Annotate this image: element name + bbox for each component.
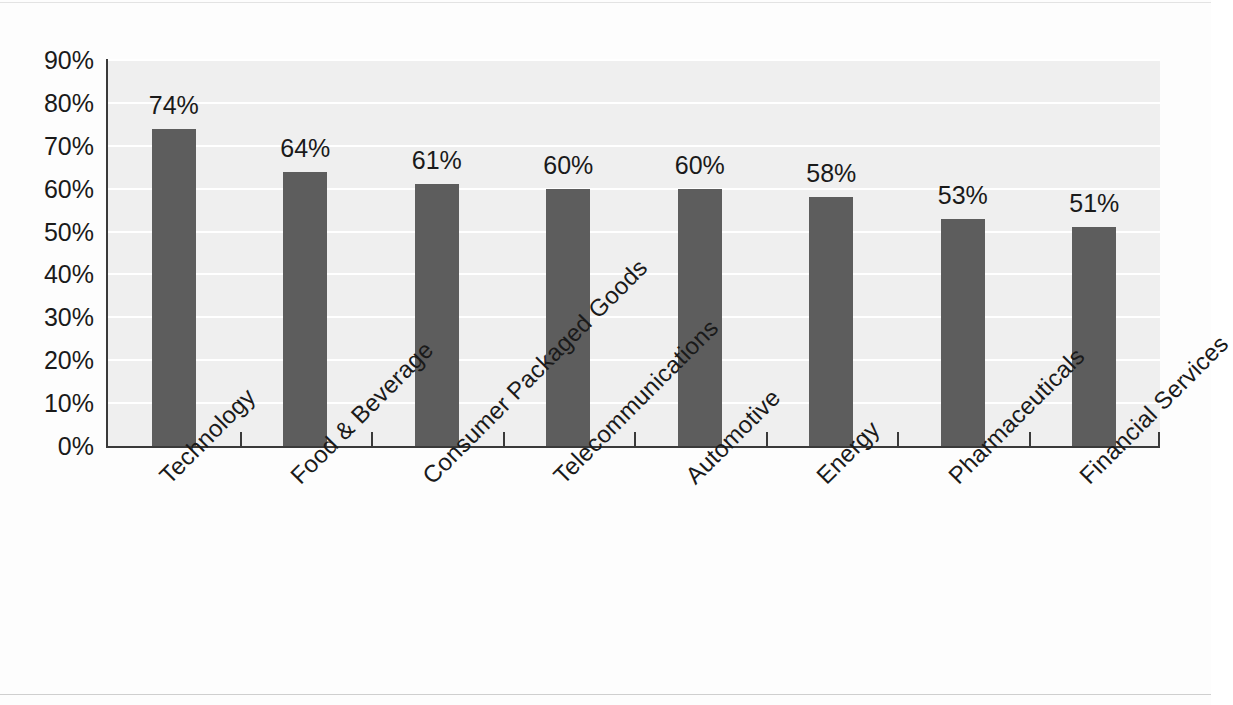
x-axis-tick [766, 432, 768, 446]
y-axis-tick-label: 60% [0, 176, 94, 201]
x-axis-end-tick [1158, 432, 1160, 446]
y-axis-tick-label: 80% [0, 90, 94, 115]
bar-value-label: 61% [412, 146, 462, 175]
gridline [108, 59, 1160, 61]
bar-value-label: 74% [149, 91, 199, 120]
gridline [108, 102, 1160, 104]
x-axis-tick [371, 432, 373, 446]
y-axis-line [106, 59, 108, 447]
bar[interactable] [152, 129, 196, 446]
bar[interactable] [1072, 227, 1116, 446]
y-axis-tick-label: 50% [0, 219, 94, 244]
page-border-top [0, 2, 1211, 3]
gridline [108, 316, 1160, 318]
bar-value-label: 64% [280, 134, 330, 163]
bar-value-label: 58% [806, 159, 856, 188]
bar-value-label: 60% [675, 151, 725, 180]
gridline [108, 145, 1160, 147]
x-axis-tick [897, 432, 899, 446]
y-axis-tick-label: 40% [0, 262, 94, 287]
gridline [108, 231, 1160, 233]
bar-value-label: 53% [938, 181, 988, 210]
y-axis-tick-label: 20% [0, 348, 94, 373]
y-axis-tick-label: 0% [0, 434, 94, 459]
bar[interactable] [809, 197, 853, 446]
x-axis-tick [634, 432, 636, 446]
y-axis-tick-label: 70% [0, 133, 94, 158]
y-axis-tick-label: 10% [0, 391, 94, 416]
gridline [108, 188, 1160, 190]
bar[interactable] [283, 172, 327, 446]
x-axis-tick [1029, 432, 1031, 446]
page-border-bottom [0, 694, 1211, 695]
bar[interactable] [941, 219, 985, 446]
bar[interactable] [415, 184, 459, 446]
y-axis-tick-label: 30% [0, 305, 94, 330]
gridline [108, 359, 1160, 361]
bar-value-label: 51% [1069, 189, 1119, 218]
y-axis-tick-label: 90% [0, 48, 94, 73]
bar-value-label: 60% [543, 151, 593, 180]
x-axis-tick [503, 432, 505, 446]
x-axis-tick [240, 432, 242, 446]
